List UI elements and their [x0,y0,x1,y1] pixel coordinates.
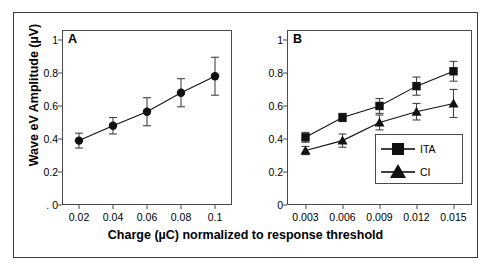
x-tick-label: 0.02 [69,211,89,223]
x-tick-label: 0.012 [403,211,429,223]
x-tick-mark [147,205,148,209]
legend-label-ita: ITA [420,143,436,155]
y-tick-label: 0.8 [268,67,283,79]
x-tick-label: 0.06 [137,211,157,223]
legend-marker-square [376,138,420,160]
x-tick-label: 0.015 [440,211,466,223]
x-tick-mark [416,205,417,209]
data-point-marker [449,67,457,75]
x-tick-mark [379,205,380,209]
data-point-marker [109,122,117,130]
legend-item-ita: ITA [376,136,462,161]
x-tick-mark [453,205,454,209]
x-tick-label: 0.04 [103,211,123,223]
x-axis-label: Charge (µC) normalized to response thres… [0,228,491,242]
panel-b: B 00.20.40.60.810.0030.0060.0090.0120.01… [287,30,472,205]
data-point-marker [338,113,346,121]
x-tick-mark [181,205,182,209]
y-tick-label: 0.2 [268,166,283,178]
data-point-marker [75,136,83,144]
y-axis-label: Wave eV Amplitude (µV) [27,5,41,185]
legend: ITA CI [375,134,463,184]
x-tick-label: 0.003 [292,211,318,223]
x-tick-mark [215,205,216,209]
x-tick-label: 0.006 [329,211,355,223]
legend-item-ci: CI [376,159,462,184]
x-tick-mark [79,205,80,209]
x-tick-label: 0.009 [366,211,392,223]
data-point-marker [301,133,309,141]
y-tick-label: . 0 [46,199,58,211]
panel-a-letter: A [68,32,77,46]
x-tick-label: 0.08 [171,211,191,223]
figure-root: Wave eV Amplitude (µV) Charge (µC) norma… [0,0,491,272]
legend-label-ci: CI [420,166,431,178]
x-tick-mark [342,205,343,209]
data-point-marker [211,72,219,80]
y-tick-label: 0.6 [268,100,283,112]
y-tick-label: 0.4 [268,133,283,145]
y-tick-label: 0.4 [43,133,58,145]
data-point-marker [177,89,185,97]
data-point-marker [375,102,383,110]
legend-marker-triangle [376,161,420,183]
x-tick-mark [305,205,306,209]
y-tick-label: 0.8 [43,67,58,79]
panel-a-series-layer [62,30,232,205]
data-point-marker [143,108,151,116]
data-point-marker [449,98,459,107]
data-point-marker [412,82,420,90]
panel-b-letter: B [293,32,302,46]
y-tick-label: 0.2 [43,166,58,178]
panel-a: A . 00.20.40.60.810.020.040.060.080.1 [62,30,232,205]
x-tick-mark [113,205,114,209]
data-point-marker [338,136,348,145]
y-tick-label: 0.6 [43,100,58,112]
x-tick-label: 0.1 [208,211,223,223]
